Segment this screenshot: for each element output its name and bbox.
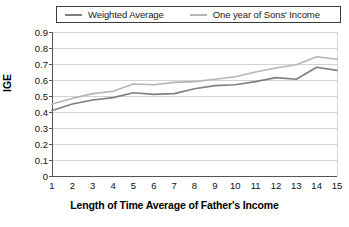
x-axis-tick-label: 11 [251,180,261,191]
legend-swatch-one-year-sons-income [190,14,207,16]
x-axis-tick-label: 10 [230,180,241,191]
x-axis-tick-label: 15 [332,180,343,191]
legend-label-one-year-sons-income: One year of Sons' Income [213,9,320,20]
x-axis-title: Length of Time Average of Father's Incom… [0,199,349,211]
x-axis-tick-label: 8 [192,180,197,191]
x-axis-tick-label: 14 [311,180,322,191]
x-axis-tick-label: 13 [291,180,302,191]
chart-legend: Weighted Average One year of Sons' Incom… [56,6,341,23]
x-axis-tick-label: 5 [131,180,136,191]
x-axis-tick-label: 1 [49,180,54,191]
legend-label-weighted-average: Weighted Average [88,9,164,20]
x-axis-tick-label: 12 [271,180,282,191]
legend-entry-one-year-sons-income: One year of Sons' Income [190,9,320,20]
x-axis-tick-label: 9 [212,180,217,191]
x-axis-tick-label: 7 [171,180,176,191]
chart-container: Weighted Average One year of Sons' Incom… [0,0,349,227]
x-axis-tick-label: 6 [151,180,156,191]
legend-swatch-weighted-average [65,14,82,16]
legend-entry-weighted-average: Weighted Average [65,9,164,20]
x-axis-tick-label: 3 [90,180,95,191]
series-line-weighted-average [52,67,337,110]
chart-plot-area [0,0,349,227]
x-axis-tick-label: 4 [110,180,115,191]
x-axis-tick-label: 2 [70,180,75,191]
